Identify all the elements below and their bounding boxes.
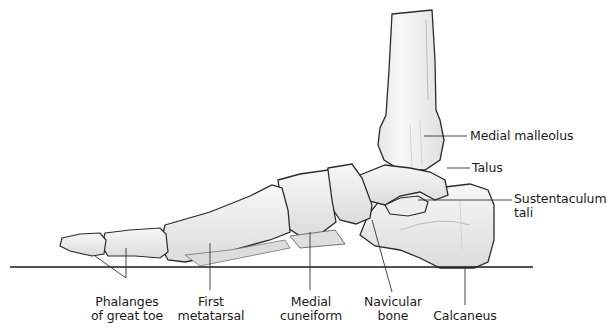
label-phalanges-of-great-toe: Phalanges of great toe bbox=[91, 295, 163, 323]
label-medial-cuneiform: Medial cuneiform bbox=[280, 295, 342, 323]
label-talus: Talus bbox=[472, 161, 503, 175]
label-first-metatarsal-line2: metatarsal bbox=[178, 309, 245, 323]
proximal-phalanx-bone bbox=[102, 228, 168, 258]
label-phalanges-line1: Phalanges bbox=[91, 295, 163, 309]
label-navicular-bone: Navicular bone bbox=[364, 295, 422, 323]
distal-phalanx-bone bbox=[60, 233, 106, 256]
label-first-metatarsal: First metatarsal bbox=[178, 295, 245, 323]
label-navicular-line2: bone bbox=[364, 309, 422, 323]
label-medial-malleolus: Medial malleolus bbox=[470, 129, 573, 143]
label-medial-cuneiform-line1: Medial bbox=[280, 295, 342, 309]
label-navicular-line1: Navicular bbox=[364, 295, 422, 309]
label-sustentaculum-tali: Sustentaculum tali bbox=[514, 192, 607, 220]
label-first-metatarsal-line1: First bbox=[178, 295, 245, 309]
tibia bbox=[378, 10, 444, 170]
label-medial-cuneiform-line2: cuneiform bbox=[280, 309, 342, 323]
label-calcaneus: Calcaneus bbox=[433, 309, 497, 323]
label-sustentaculum-line2: tali bbox=[514, 206, 607, 220]
label-sustentaculum-line1: Sustentaculum bbox=[514, 192, 607, 206]
first-metatarsal-bone bbox=[160, 185, 290, 266]
label-phalanges-line2: of great toe bbox=[91, 309, 163, 323]
